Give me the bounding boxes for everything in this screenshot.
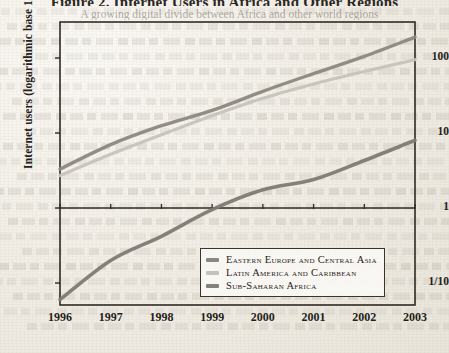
x-tick-label: 1996 — [36, 310, 84, 325]
x-tick-label: 2003 — [391, 310, 439, 325]
x-tick-label: 2000 — [239, 310, 287, 325]
x-tick-label: 1997 — [87, 310, 135, 325]
plot-svg — [0, 0, 449, 353]
chart-legend: Eastern Europe and Central AsiaLatin Ame… — [200, 248, 385, 297]
legend-item: Sub-Saharan Africa — [206, 279, 377, 292]
x-tick-label: 2001 — [290, 310, 338, 325]
y-tick-label: 100 — [398, 50, 449, 62]
x-tick-label: 1998 — [137, 310, 185, 325]
legend-label: Latin America and Caribbean — [226, 267, 357, 278]
legend-color-swatch — [206, 271, 219, 275]
y-tick-label: 1 — [398, 200, 449, 212]
legend-label: Eastern Europe and Central Asia — [226, 254, 377, 265]
legend-color-swatch — [206, 284, 219, 288]
legend-item: Eastern Europe and Central Asia — [206, 253, 377, 266]
legend-color-swatch — [206, 258, 219, 262]
chart-area: Internet users (logarithmic base 10 scal… — [0, 0, 449, 353]
legend-label: Sub-Saharan Africa — [226, 280, 317, 291]
y-tick-label: 10 — [398, 125, 449, 137]
x-tick-label: 1999 — [188, 310, 236, 325]
legend-item: Latin America and Caribbean — [206, 266, 377, 279]
y-tick-label: 1/10 — [398, 275, 449, 287]
x-tick-label: 2002 — [340, 310, 388, 325]
